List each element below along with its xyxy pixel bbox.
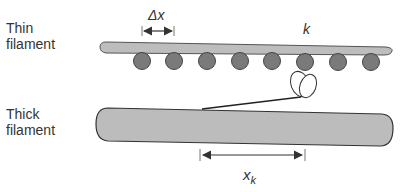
xk-label: xk bbox=[243, 166, 256, 186]
thick-filament bbox=[96, 108, 393, 146]
xk-sub: k bbox=[251, 174, 257, 186]
actin-monomer bbox=[330, 54, 347, 71]
delta-x-label: Δx bbox=[148, 7, 164, 23]
actin-monomer bbox=[134, 53, 151, 70]
delta-x-arrow bbox=[142, 26, 174, 36]
xk-arrow bbox=[200, 149, 305, 161]
actin-monomer bbox=[232, 53, 249, 70]
actin-monomer bbox=[166, 53, 183, 70]
actin-monomer bbox=[199, 53, 216, 70]
xk-base: x bbox=[243, 166, 251, 183]
myosin-crossbridge bbox=[202, 69, 320, 109]
actin-monomer bbox=[264, 53, 281, 70]
actin-monomer bbox=[297, 54, 314, 71]
k-label: k bbox=[303, 21, 310, 37]
sarcomere-diagram bbox=[0, 0, 407, 192]
actin-monomer bbox=[363, 54, 380, 71]
actin-monomers bbox=[134, 53, 380, 71]
